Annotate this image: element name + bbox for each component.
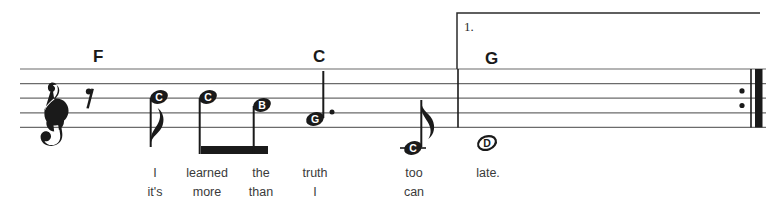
chord-symbol-f: F	[93, 48, 103, 65]
repeat-dot	[739, 88, 744, 93]
note-flag	[421, 102, 434, 139]
lyric-syllable: than	[249, 186, 273, 199]
staff-lines	[20, 69, 766, 127]
augmentation-dot	[330, 110, 335, 115]
lyric-syllable: can	[404, 186, 424, 199]
note-b: B	[251, 96, 273, 154]
notehead-letter: C	[204, 91, 212, 103]
note-g: G	[304, 71, 334, 128]
treble-clef-glyph	[41, 83, 69, 146]
note-d: D	[476, 134, 498, 153]
lyric-syllable: too	[405, 167, 422, 180]
beams	[201, 146, 268, 154]
lyric-syllable: I	[313, 186, 316, 199]
ending-bracket-line	[457, 13, 760, 69]
lyric-syllable: learned	[186, 167, 228, 180]
note-c: C	[148, 88, 170, 147]
treble-clef-icon	[41, 83, 69, 146]
note-c: C	[197, 88, 219, 154]
notehead-letter: G	[311, 113, 319, 125]
ending-number-label: 1.	[464, 20, 474, 33]
notehead-letter: B	[258, 99, 266, 111]
lyric-syllable: more	[193, 186, 221, 199]
note-c: C	[400, 100, 434, 157]
notehead-letter: C	[409, 142, 417, 154]
note-flag	[151, 108, 164, 145]
chord-symbol-c: C	[313, 48, 325, 65]
barline-thick	[755, 69, 763, 127]
first-ending-bracket	[457, 13, 760, 69]
lyric-syllable: late.	[476, 167, 500, 180]
lyric-syllable: it's	[148, 186, 163, 199]
lyric-syllable: truth	[302, 167, 327, 180]
notehead-letter: C	[155, 91, 163, 103]
repeat-dot	[739, 103, 744, 108]
music-notation-canvas: CCBGCD	[0, 0, 775, 205]
notehead-letter: D	[483, 137, 491, 149]
sheet-music-score: CCBGCD FCG 1. Ilearnedthetruthtoolate.it…	[0, 0, 775, 205]
lyric-syllable: I	[153, 167, 156, 180]
lyric-syllable: the	[252, 167, 269, 180]
beam	[201, 146, 268, 154]
chord-symbol-g: G	[485, 50, 498, 67]
